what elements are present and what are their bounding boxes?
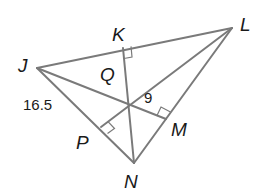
label-l: L <box>240 15 251 34</box>
right-angle-k <box>124 46 132 58</box>
label-j: J <box>18 56 28 75</box>
label-p: P <box>76 133 89 152</box>
label-n: N <box>124 172 138 191</box>
label-q: Q <box>100 65 115 84</box>
right-angle-p <box>108 122 115 134</box>
measure-jp: 16.5 <box>23 97 52 112</box>
side-jl <box>37 28 232 68</box>
measure-qm: 9 <box>144 90 152 105</box>
label-m: M <box>171 120 187 139</box>
label-k: K <box>112 25 125 44</box>
